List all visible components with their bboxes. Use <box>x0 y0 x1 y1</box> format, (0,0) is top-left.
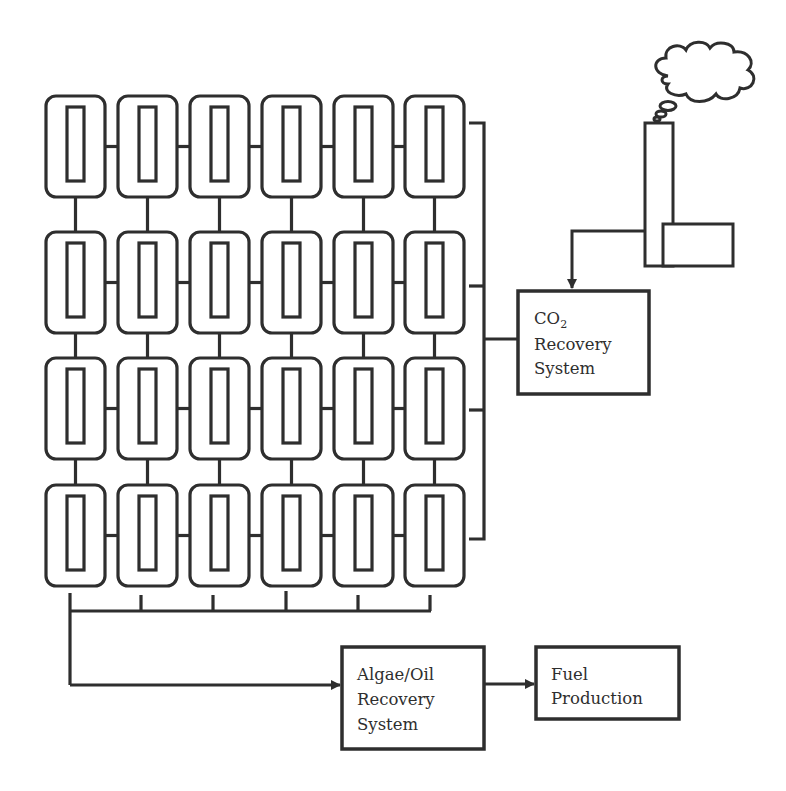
photobioreactor-unit <box>405 96 464 197</box>
algae-fuel-process-diagram: CO2 Recovery System Algae/Oil Recovery S… <box>0 0 786 791</box>
photobioreactor-unit <box>190 358 249 459</box>
algae-oil-label: Algae/Oil <box>356 665 434 684</box>
fuel-label: Fuel <box>551 665 588 684</box>
photobioreactor-unit <box>46 96 105 197</box>
photobioreactor-unit <box>118 485 177 586</box>
cloud-icon <box>654 42 754 121</box>
arrow-flue-gas-to-co2 <box>572 231 645 288</box>
photobioreactor-array <box>46 96 464 586</box>
photobioreactor-unit <box>334 358 393 459</box>
photobioreactor-unit <box>334 232 393 333</box>
photobioreactor-unit <box>118 96 177 197</box>
algae-recovery-label: Recovery <box>357 690 435 709</box>
smokestack-icon <box>645 123 733 266</box>
photobioreactor-unit <box>190 232 249 333</box>
photobioreactor-unit <box>334 485 393 586</box>
algae-oil-recovery-system-box: Algae/Oil Recovery System <box>342 647 484 749</box>
algae-system-label: System <box>357 715 418 734</box>
co2-supply-bus <box>469 123 518 539</box>
photobioreactor-unit <box>262 232 321 333</box>
photobioreactor-unit <box>118 358 177 459</box>
production-label: Production <box>551 689 643 708</box>
photobioreactor-unit <box>405 358 464 459</box>
co2-recovery-label: Recovery <box>534 335 612 354</box>
photobioreactor-unit <box>46 358 105 459</box>
photobioreactor-unit <box>46 232 105 333</box>
photobioreactor-unit <box>46 485 105 586</box>
photobioreactor-unit <box>262 485 321 586</box>
co2-recovery-system-box: CO2 Recovery System <box>518 291 649 394</box>
photobioreactor-unit <box>190 485 249 586</box>
photobioreactor-unit <box>262 96 321 197</box>
photobioreactor-unit <box>190 96 249 197</box>
photobioreactor-unit <box>405 485 464 586</box>
fuel-production-box: Fuel Production <box>536 647 679 719</box>
photobioreactor-unit <box>405 232 464 333</box>
photobioreactor-unit <box>334 96 393 197</box>
photobioreactor-unit <box>262 358 321 459</box>
co2-system-label: System <box>534 359 595 378</box>
photobioreactor-unit <box>118 232 177 333</box>
